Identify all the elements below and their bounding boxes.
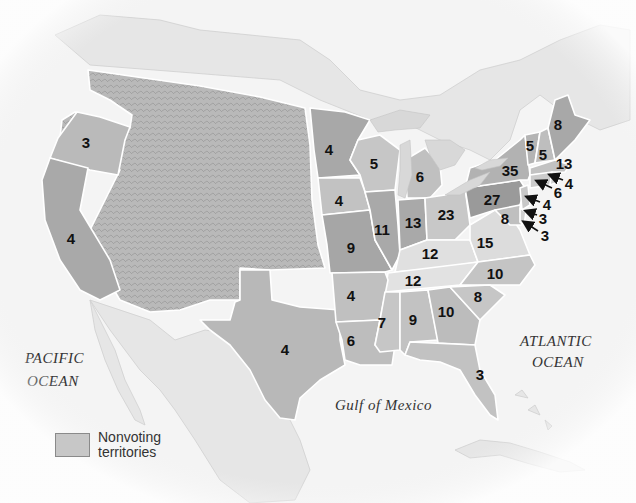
ev-label-new-york: 35 [502,162,519,179]
ev-label-florida: 3 [476,366,484,383]
legend: Nonvoting territories [55,430,161,460]
ev-label-texas: 4 [281,341,290,358]
ev-label-pennsylvania: 27 [484,191,501,208]
ev-label-oregon: 3 [82,134,90,151]
ev-label-north-carolina: 10 [487,265,504,282]
ev-label-alabama: 9 [409,311,417,328]
ev-label-georgia: 10 [438,303,455,320]
ev-label-delaware-lower: 3 [541,227,549,244]
legend-swatch-nonvoting [55,433,90,457]
ev-label-connecticut: 6 [554,184,562,201]
gulf-of-mexico-label: Gulf of Mexico [335,397,432,413]
legend-label: Nonvoting territories [98,430,161,460]
ev-label-wisconsin: 5 [370,155,378,172]
state-iowa [318,178,370,215]
ev-label-louisiana: 6 [347,332,355,349]
map-svg: 3 4 4 5 6 4 9 11 13 23 12 12 4 6 7 9 10 … [0,0,636,503]
pacific-ocean-label-line1: PACIFIC [24,350,85,366]
ev-label-virginia: 15 [477,234,494,251]
ev-label-delaware-upper: 3 [539,210,547,227]
ev-label-iowa: 4 [335,192,344,209]
ev-label-vermont: 5 [526,137,534,154]
legend-label-line1: Nonvoting [98,430,161,445]
ev-label-michigan: 6 [416,168,424,185]
ev-label-maryland: 8 [501,210,509,227]
ev-label-indiana: 13 [405,214,422,231]
ev-label-south-carolina: 8 [474,288,482,305]
ev-label-new-hampshire: 5 [539,146,547,163]
atlantic-ocean-label-line2: OCEAN [532,354,584,370]
ev-label-maine: 8 [554,116,562,133]
arrow-delaware-lower [524,222,538,231]
ev-label-rhode-island: 4 [565,175,574,192]
electoral-map: 3 4 4 5 6 4 9 11 13 23 12 12 4 6 7 9 10 … [0,0,636,503]
ev-label-kentucky: 12 [422,245,439,262]
ev-label-tennessee: 12 [405,272,422,289]
ev-label-illinois: 11 [374,221,390,238]
ev-label-minnesota: 4 [325,141,334,158]
ev-label-mississippi: 7 [378,314,386,331]
ev-label-ohio: 23 [438,206,455,223]
ev-label-missouri: 9 [347,239,355,256]
bahamas-land [515,390,552,430]
ev-label-arkansas: 4 [347,287,356,304]
atlantic-ocean-label-line1: ATLANTIC [519,333,592,349]
ev-label-california: 4 [67,230,76,247]
ev-label-massachusetts: 13 [556,155,573,172]
pacific-ocean-label-line2: OCEAN [27,373,79,389]
legend-label-line2: territories [98,445,161,460]
cuba-land [455,440,585,472]
arrow-delaware-upper [526,211,537,215]
